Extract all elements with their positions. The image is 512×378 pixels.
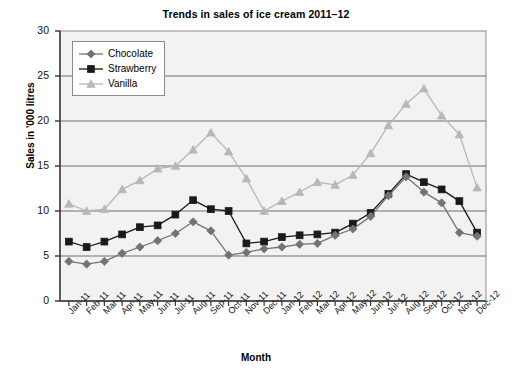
legend-marker-diamond-icon — [78, 48, 104, 60]
data-point-square — [172, 211, 179, 218]
legend-marker-triangle-icon — [78, 78, 104, 90]
y-tick-label: 20 — [23, 114, 49, 126]
data-point-square — [456, 198, 463, 205]
legend-label: Strawberry — [108, 63, 156, 74]
y-tick-label: 15 — [23, 159, 49, 171]
legend-label: Chocolate — [108, 48, 153, 59]
data-point-square — [243, 240, 250, 247]
legend-label: Vanilla — [108, 78, 137, 89]
legend-marker-square-icon — [78, 63, 104, 75]
data-point-square — [154, 222, 161, 229]
y-tick-label: 30 — [23, 24, 49, 36]
data-point-square — [136, 224, 143, 231]
data-point-square — [207, 206, 214, 213]
data-point-square — [65, 238, 72, 245]
data-point-square — [83, 244, 90, 251]
data-point-square — [190, 197, 197, 204]
legend-item-vanilla: Vanilla — [78, 76, 156, 91]
data-point-square — [278, 234, 285, 241]
data-point-square — [438, 186, 445, 193]
chart-legend: ChocolateStrawberryVanilla — [72, 41, 165, 96]
data-point-square — [88, 65, 95, 72]
data-point-square — [225, 208, 232, 215]
data-point-square — [314, 231, 321, 238]
data-point-square — [296, 232, 303, 239]
legend-item-chocolate: Chocolate — [78, 46, 156, 61]
y-tick-label: 25 — [23, 69, 49, 81]
legend-item-strawberry: Strawberry — [78, 61, 156, 76]
data-point-diamond — [87, 49, 95, 57]
y-tick-label: 5 — [23, 249, 49, 261]
data-point-square — [261, 238, 268, 245]
y-tick-label: 0 — [23, 294, 49, 306]
ice-cream-sales-line-chart: Trends in sales of ice cream 2011–12 Sal… — [0, 0, 512, 378]
chart-title: Trends in sales of ice cream 2011–12 — [0, 8, 512, 20]
data-point-square — [420, 179, 427, 186]
y-tick-label: 10 — [23, 204, 49, 216]
data-point-square — [101, 238, 108, 245]
x-axis-label: Month — [0, 352, 512, 363]
data-point-square — [119, 231, 126, 238]
